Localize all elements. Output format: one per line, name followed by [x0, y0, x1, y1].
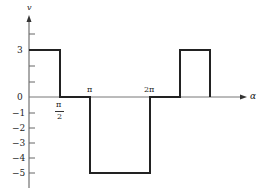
- x-axis-arrow-icon: [240, 95, 247, 100]
- y-axis-arrow-icon: [27, 15, 32, 22]
- x-tick-label-pi: π: [87, 86, 92, 94]
- x-tick-label-pi-over-2-den: 2: [57, 113, 62, 121]
- x-axis-label: α: [250, 92, 256, 101]
- x-tick-label-2pi: 2π: [144, 86, 154, 94]
- waveform-chart: [0, 0, 265, 196]
- y-tick-label-neg4: −4: [12, 154, 25, 163]
- y-axis-label: v: [27, 4, 32, 12]
- y-tick-label-neg3: −3: [12, 139, 25, 148]
- y-ticks: [29, 34, 35, 173]
- y-tick-label-3: 3: [17, 46, 23, 55]
- x-tick-label-pi-over-2-num: π: [56, 101, 61, 109]
- y-tick-label-neg2: −2: [12, 124, 25, 133]
- y-tick-label-neg5: −5: [12, 169, 25, 178]
- y-tick-label-0: 0: [17, 93, 23, 102]
- y-tick-label-neg1: −1: [12, 109, 25, 118]
